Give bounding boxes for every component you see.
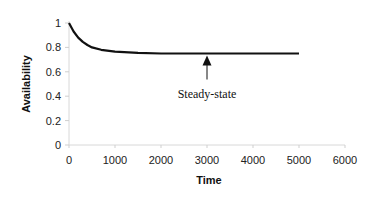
x-tick-label: 2000 [149, 154, 173, 166]
steady-state-label: Steady-state [178, 87, 237, 101]
x-tick-label: 4000 [241, 154, 265, 166]
y-axis-label: Availability [20, 54, 32, 113]
y-tick-label: 0.4 [46, 90, 61, 102]
x-tick-label: 5000 [287, 154, 311, 166]
y-tick-label: 0.6 [46, 66, 61, 78]
y-tick-label: 0.8 [46, 41, 61, 53]
y-tick-label: 0 [55, 139, 61, 151]
x-axis-label: Time [196, 174, 221, 186]
x-tick-label: 0 [66, 154, 72, 166]
x-tick-label: 3000 [195, 154, 219, 166]
y-tick-label: 1 [55, 17, 61, 29]
x-axis: 0100020003000400050006000 [66, 145, 357, 166]
x-tick-label: 6000 [333, 154, 357, 166]
arrow-head-icon [203, 56, 212, 66]
availability-line [69, 23, 299, 54]
steady-state-annotation: Steady-state [178, 56, 237, 101]
availability-chart: 00.20.40.60.81 0100020003000400050006000… [0, 0, 377, 201]
y-tick-label: 0.2 [46, 115, 61, 127]
y-axis: 00.20.40.60.81 [46, 17, 69, 151]
x-tick-label: 1000 [103, 154, 127, 166]
